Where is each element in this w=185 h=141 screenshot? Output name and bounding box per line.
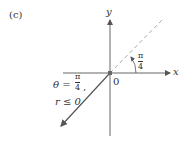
theta-equals: θ = [53,80,71,90]
theta-numerator: π [75,73,80,81]
theta-denominator: 4 [75,84,80,92]
r-condition: r ≤ 0 [55,97,81,107]
angle-numerator: π [138,52,143,60]
origin-point [108,71,112,75]
panel-label: (c) [9,10,22,20]
dashed-ray-pi-over-4 [110,19,163,73]
x-axis-label: x [173,67,179,77]
angle-label-fraction: π 4 [138,52,143,71]
theta-comma: , [83,82,86,92]
y-axis-label: y [106,7,112,17]
angle-denominator: 4 [138,63,143,71]
theta-fraction: π 4 [75,73,80,92]
angle-arc [131,57,136,73]
diagram-canvas [0,0,185,141]
origin-label: 0 [113,77,119,87]
